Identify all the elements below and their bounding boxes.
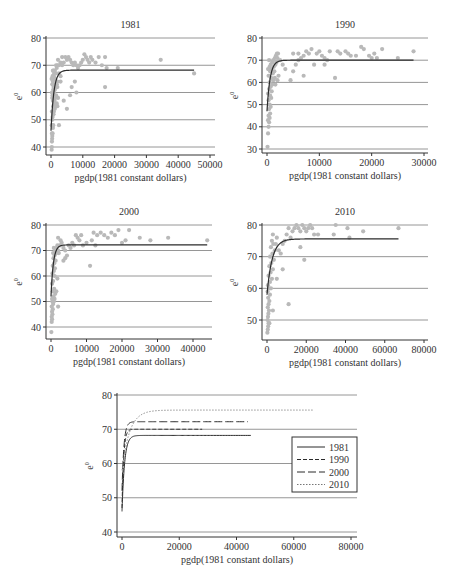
data-point xyxy=(285,232,289,236)
data-point xyxy=(302,54,306,58)
data-point xyxy=(281,63,285,67)
data-point xyxy=(275,78,279,82)
data-point xyxy=(396,56,400,60)
data-point xyxy=(276,74,280,78)
data-point xyxy=(148,238,152,242)
data-point xyxy=(286,226,290,230)
data-point xyxy=(63,248,67,252)
data-point xyxy=(283,67,287,71)
data-point xyxy=(370,56,374,60)
legend-label: 1990 xyxy=(329,454,349,465)
x-tick-label: 10000 xyxy=(307,157,332,168)
y-tick-label: 60 xyxy=(102,458,112,469)
data-point xyxy=(271,267,275,271)
data-point xyxy=(291,51,295,55)
data-point xyxy=(51,69,55,73)
data-point xyxy=(92,231,96,235)
x-tick-label: 40000 xyxy=(333,344,358,355)
data-point xyxy=(79,233,83,237)
data-point xyxy=(322,63,326,67)
series-line-1990 xyxy=(122,429,202,508)
y-axis-label: e0 xyxy=(229,92,240,99)
data-point xyxy=(307,51,311,55)
chart-panel-combined: 4050607080020000400006000080000pgdp(1981… xyxy=(84,390,364,567)
y-tick-label: 70 xyxy=(102,424,112,435)
data-point xyxy=(270,239,274,243)
x-tick-label: 60000 xyxy=(281,541,306,552)
x-tick-label: 0 xyxy=(120,541,125,552)
data-point xyxy=(205,238,209,242)
y-axis-label: e0 xyxy=(13,278,24,285)
data-point xyxy=(268,103,272,107)
data-point xyxy=(81,58,85,62)
y-tick-label: 50 xyxy=(102,492,112,503)
data-point xyxy=(271,308,275,312)
data-point xyxy=(56,58,60,62)
data-point xyxy=(55,104,59,108)
data-point xyxy=(68,93,72,97)
chart-panel-1981: 4050607080010000200003000040000500001981… xyxy=(13,19,223,184)
data-point xyxy=(276,51,280,55)
data-point xyxy=(266,125,270,129)
data-point xyxy=(296,51,300,55)
y-tick-label: 80 xyxy=(102,390,112,401)
data-point xyxy=(354,54,358,58)
y-tick-label: 60 xyxy=(31,87,41,98)
data-point xyxy=(192,71,196,75)
fit-curve xyxy=(267,60,414,111)
x-tick-label: 0 xyxy=(49,343,54,354)
data-point xyxy=(56,96,60,100)
y-axis-label: e0 xyxy=(13,93,24,100)
data-point xyxy=(268,111,272,115)
x-tick-label: 0 xyxy=(49,159,54,170)
x-tick-label: 30000 xyxy=(134,159,159,170)
y-tick-label: 40 xyxy=(102,527,112,538)
data-point xyxy=(270,277,274,281)
x-tick-label: 30000 xyxy=(412,157,437,168)
data-point xyxy=(275,236,279,240)
data-point xyxy=(73,80,77,84)
figure-canvas: 4050607080010000200003000040000500001981… xyxy=(0,0,452,582)
data-point xyxy=(62,99,66,103)
y-tick-label: 40 xyxy=(247,121,257,132)
y-tick-label: 80 xyxy=(247,33,257,44)
chart-panel-2010: 506070800200004000060000800002010pgdp(19… xyxy=(229,206,437,369)
data-point xyxy=(63,256,67,260)
y-tick-label: 70 xyxy=(31,60,41,71)
x-tick-label: 50000 xyxy=(198,159,223,170)
data-point xyxy=(127,228,131,232)
x-tick-label: 10000 xyxy=(70,159,95,170)
data-point xyxy=(362,47,366,51)
x-axis-label: pgdp(1981 constant dollars) xyxy=(289,357,401,369)
data-point xyxy=(333,76,337,80)
data-point xyxy=(361,229,365,233)
data-point xyxy=(269,286,273,290)
data-point xyxy=(123,238,127,242)
data-point xyxy=(328,49,332,53)
y-tick-label: 50 xyxy=(31,114,41,125)
data-point xyxy=(100,63,104,67)
data-point xyxy=(286,302,290,306)
data-point xyxy=(345,226,349,230)
data-point xyxy=(266,131,270,135)
x-tick-label: 20000 xyxy=(110,343,135,354)
data-point xyxy=(273,83,277,87)
y-tick-label: 70 xyxy=(31,245,41,256)
data-point xyxy=(57,251,61,255)
data-point xyxy=(50,131,54,135)
data-point xyxy=(97,55,101,59)
data-point xyxy=(294,63,298,67)
data-point xyxy=(372,51,376,55)
y-tick-label: 50 xyxy=(247,315,257,326)
y-tick-label: 50 xyxy=(247,99,257,110)
y-tick-label: 30 xyxy=(247,144,257,155)
data-point xyxy=(332,232,336,236)
chart-panel-2000: 40506070800100002000030000400002000pgdp(… xyxy=(13,206,212,368)
data-point xyxy=(302,74,306,78)
fit-curve xyxy=(51,70,194,130)
data-point xyxy=(57,123,61,127)
data-point xyxy=(312,232,316,236)
y-tick-label: 60 xyxy=(247,77,257,88)
y-tick-label: 40 xyxy=(31,322,41,333)
data-point xyxy=(309,47,313,51)
